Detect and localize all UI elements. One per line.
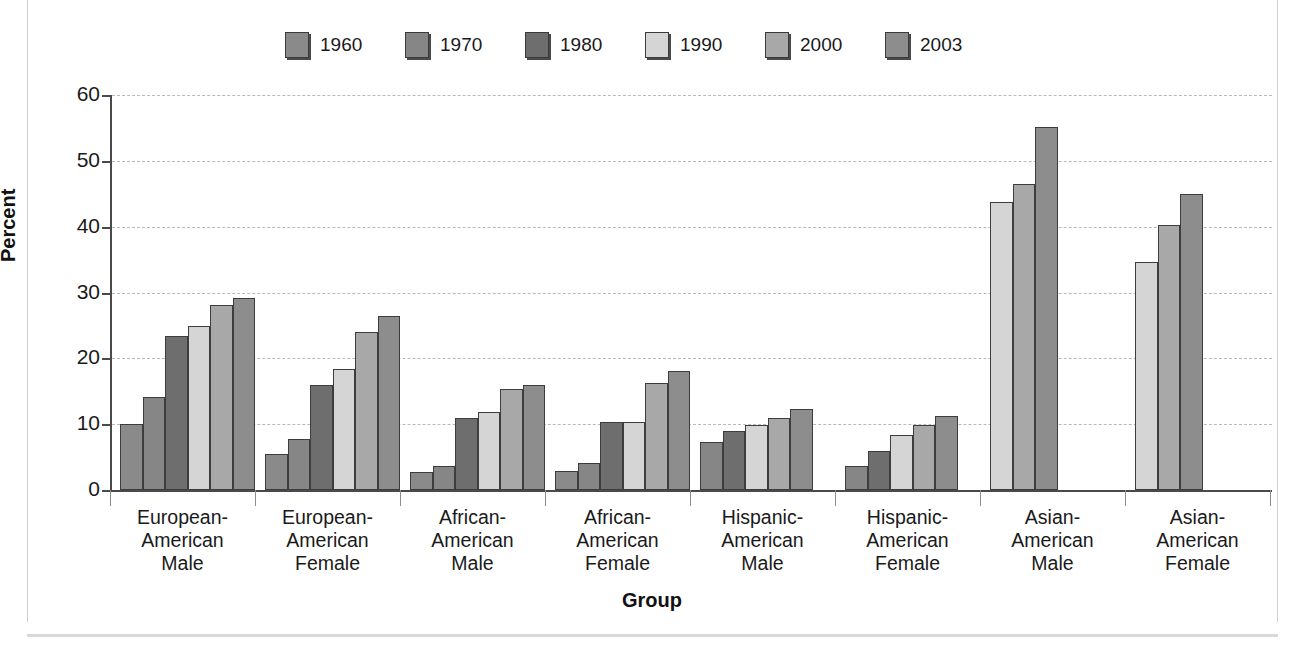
x-group-separator <box>255 490 256 506</box>
bar <box>1013 184 1036 490</box>
x-group-separator <box>1270 490 1271 506</box>
y-tick-mark-40 <box>102 227 112 229</box>
bar <box>1035 127 1058 490</box>
x-group-separator <box>980 490 981 506</box>
bar <box>768 418 791 490</box>
x-group-label: Hispanic- American Female <box>835 506 980 575</box>
gridline-10 <box>112 424 1272 425</box>
bar <box>700 442 723 490</box>
x-group-separator <box>110 490 111 506</box>
bar <box>355 332 378 490</box>
bar <box>143 397 166 490</box>
bar <box>935 416 958 490</box>
bar <box>500 389 523 490</box>
bar <box>578 463 601 490</box>
bar <box>890 435 913 490</box>
x-group-separator <box>545 490 546 506</box>
x-group-label: Hispanic- American Male <box>690 506 835 575</box>
y-tick-label-60: 60 <box>54 82 100 106</box>
bar <box>623 422 646 490</box>
bar <box>378 316 401 490</box>
bar <box>433 466 456 490</box>
bar <box>555 471 578 490</box>
y-tick-mark-10 <box>102 424 112 426</box>
bar <box>410 472 433 490</box>
y-tick-mark-30 <box>102 293 112 295</box>
bar <box>668 371 691 490</box>
legend-item-1990[interactable]: 1990 <box>645 32 765 58</box>
x-group-label: Asian- American Female <box>1125 506 1270 575</box>
x-group-label: African- American Male <box>400 506 545 575</box>
y-tick-label-30: 30 <box>54 280 100 304</box>
x-group-separator <box>690 490 691 506</box>
legend-label-1980: 1980 <box>560 34 602 56</box>
y-tick-label-20: 20 <box>54 345 100 369</box>
gridline-50 <box>112 161 1272 162</box>
bar <box>210 305 233 490</box>
legend-item-1970[interactable]: 1970 <box>405 32 525 58</box>
legend-item-2003[interactable]: 2003 <box>885 32 1005 58</box>
bar <box>188 326 211 490</box>
y-axis: 0102030405060 <box>40 95 100 490</box>
y-tick-label-40: 40 <box>54 214 100 238</box>
x-group-label: African- American Female <box>545 506 690 575</box>
x-group-separator <box>1125 490 1126 506</box>
legend-label-1960: 1960 <box>320 34 362 56</box>
y-axis-title: Percent <box>0 189 20 262</box>
chart-legend: 196019701980199020002003 <box>285 30 1005 60</box>
y-tick-mark-50 <box>102 161 112 163</box>
y-tick-mark-60 <box>102 95 112 97</box>
bar <box>288 439 311 490</box>
bar <box>868 451 891 490</box>
y-tick-label-10: 10 <box>54 411 100 435</box>
left-border-rule <box>27 0 28 622</box>
legend-swatch-1980 <box>525 32 549 58</box>
legend-label-2003: 2003 <box>920 34 962 56</box>
bar <box>745 425 768 490</box>
x-group-label: Asian- American Male <box>980 506 1125 575</box>
x-axis-title: Group <box>0 589 1304 612</box>
bar <box>990 202 1013 490</box>
bar <box>523 385 546 490</box>
bar <box>310 385 333 490</box>
x-group-separator <box>835 490 836 506</box>
legend-label-2000: 2000 <box>800 34 842 56</box>
chart-page: 196019701980199020002003 0102030405060 P… <box>0 0 1304 645</box>
x-group-label: European- American Male <box>110 506 255 575</box>
gridline-30 <box>112 293 1272 294</box>
bar <box>845 466 868 490</box>
bar <box>645 383 668 490</box>
legend-swatch-2003 <box>885 32 909 58</box>
x-group-label: European- American Female <box>255 506 400 575</box>
legend-swatch-2000 <box>765 32 789 58</box>
legend-item-1960[interactable]: 1960 <box>285 32 405 58</box>
plot-area <box>110 95 1272 490</box>
legend-label-1970: 1970 <box>440 34 482 56</box>
bar <box>455 418 478 490</box>
y-tick-mark-20 <box>102 358 112 360</box>
bar <box>1180 194 1203 490</box>
bar <box>723 431 746 490</box>
bar <box>333 369 356 490</box>
bar <box>1135 262 1158 490</box>
gridline-60 <box>112 95 1272 96</box>
legend-label-1990: 1990 <box>680 34 722 56</box>
bar <box>120 424 143 490</box>
legend-swatch-1970 <box>405 32 429 58</box>
y-tick-label-50: 50 <box>54 148 100 172</box>
y-tick-label-0: 0 <box>54 477 100 501</box>
gridline-0 <box>112 490 1272 492</box>
bar <box>233 298 256 490</box>
bar <box>165 336 188 490</box>
bar <box>265 454 288 490</box>
legend-item-2000[interactable]: 2000 <box>765 32 885 58</box>
legend-swatch-1960 <box>285 32 309 58</box>
legend-swatch-1990 <box>645 32 669 58</box>
x-group-separator <box>400 490 401 506</box>
bar <box>913 425 936 490</box>
bar <box>478 412 501 490</box>
gridline-40 <box>112 227 1272 228</box>
legend-item-1980[interactable]: 1980 <box>525 32 645 58</box>
right-border-rule <box>1277 0 1278 622</box>
bar <box>600 422 623 490</box>
